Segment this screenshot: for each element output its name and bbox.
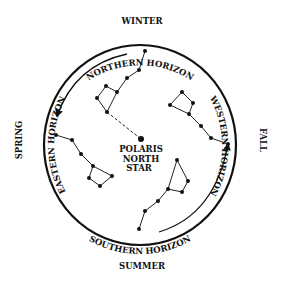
western-horizon-label: WESTERN HORIZON — [208, 93, 231, 198]
spring-label: SPRING — [14, 121, 24, 160]
fall-label: FALL — [258, 128, 268, 152]
polaris-label: POLARIS — [119, 144, 163, 154]
constellation-diagram: POLARIS NORTH STAR WINTER — [0, 0, 284, 283]
constellation-spring — [54, 133, 114, 188]
polaris-star-icon — [138, 136, 144, 142]
pointer-line — [107, 112, 141, 139]
winter-label: WINTER — [120, 16, 163, 26]
star-label: STAR — [126, 163, 153, 173]
summer-label: SUMMER — [119, 261, 166, 271]
